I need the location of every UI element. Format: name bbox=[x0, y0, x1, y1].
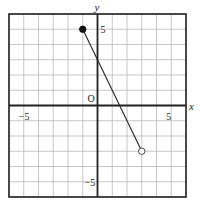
coordinate-plane: x y O −555−5 bbox=[0, 0, 200, 204]
filled-endpoint-icon bbox=[80, 26, 86, 32]
y-axis-label: y bbox=[94, 1, 100, 13]
x-axis-label: x bbox=[188, 100, 194, 112]
x-tick-label: −5 bbox=[19, 111, 30, 122]
y-tick-label: −5 bbox=[85, 177, 96, 188]
x-tick-label: 5 bbox=[166, 111, 171, 122]
open-endpoint-icon bbox=[139, 148, 145, 154]
origin-label: O bbox=[88, 93, 95, 104]
y-tick-label: 5 bbox=[101, 24, 106, 35]
